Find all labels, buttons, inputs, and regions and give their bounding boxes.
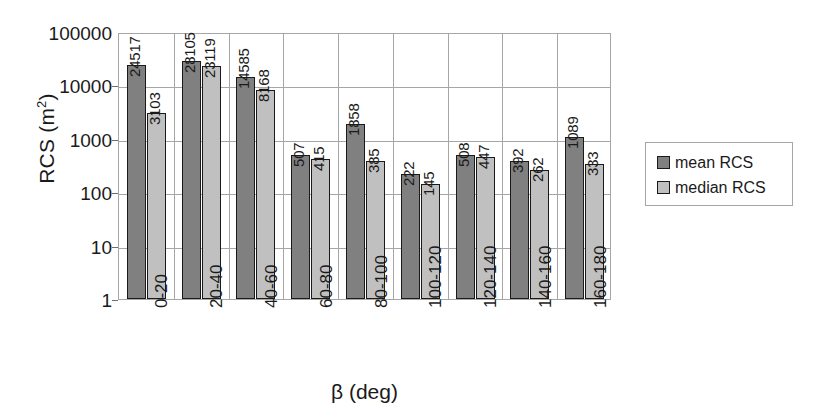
chart-legend: mean RCSmedian RCS [645,142,793,206]
y-tick-label: 100 [20,184,112,203]
bar-mean[interactable] [291,155,310,299]
x-tick-label: 0-20 [153,274,170,308]
gridline-vertical [557,34,558,299]
bar-value-label: 145 [421,171,436,195]
gridline-vertical [448,34,449,299]
bar-value-label: 3103 [147,92,162,125]
bar-value-label: 1858 [346,104,361,137]
legend-label: mean RCS [675,155,753,171]
bar-mean[interactable] [456,155,475,299]
bar-value-label: 1089 [565,116,580,149]
bar-value-label: 8168 [256,70,271,103]
bar-value-label: 385 [366,148,381,172]
bar-mean[interactable] [182,61,201,299]
bar-value-label: 23119 [202,38,217,78]
legend-item[interactable]: median RCS [657,175,792,200]
x-tick-label: 140-160 [537,246,554,308]
bar-value-label: 28105 [182,33,197,74]
bar-mean[interactable] [401,174,420,299]
y-tick-label: 10 [20,238,112,257]
gridline-vertical [283,34,284,299]
bar-value-label: 14585 [236,48,251,89]
y-axis-ticks: 100000100001000100101 [18,0,112,420]
bar-value-label: 262 [530,157,545,181]
y-axis-tickmark [112,193,118,194]
x-tick-label: 160-180 [592,246,609,308]
x-tick-label: 20-40 [208,265,225,308]
x-tick-label: 60-80 [318,265,335,308]
y-tick-label: 100000 [20,24,112,43]
bar-mean[interactable] [236,77,255,299]
x-tick-label: 40-60 [263,265,280,308]
gridline-vertical [174,34,175,299]
bar-median[interactable] [147,113,166,299]
gridline-vertical [338,34,339,299]
bar-mean[interactable] [510,161,529,299]
bar-value-label: 392 [510,148,525,172]
bar-value-label: 507 [291,142,306,166]
y-tick-label: 1000 [20,131,112,150]
x-tick-label: 120-140 [482,246,499,308]
bar-value-label: 447 [476,145,491,169]
x-tick-label: 80-100 [373,255,390,308]
bar-mean[interactable] [346,124,365,299]
legend-label: median RCS [675,180,766,196]
legend-item[interactable]: mean RCS [657,150,792,175]
bar-mean[interactable] [127,65,146,299]
legend-swatch-icon [657,181,670,194]
bar-value-label: 222 [401,161,416,185]
y-axis-tickmark [112,247,118,248]
bar-value-label: 508 [456,142,471,166]
y-axis-tickmark [112,140,118,141]
legend-swatch-icon [657,156,670,169]
gridline-vertical [502,34,503,299]
gridline-vertical [229,34,230,299]
y-axis-tickmark [112,86,118,87]
rcs-bar-chart: RCS (m2) 100000100001000100101 0-2020-40… [0,0,821,420]
bar-value-label: 24517 [127,36,142,77]
x-tick-label: 100-120 [427,246,444,308]
bar-value-label: 415 [311,147,326,171]
y-tick-label: 10000 [20,77,112,96]
gridline-vertical [393,34,394,299]
bar-mean[interactable] [565,137,584,299]
y-tick-label: 1 [20,291,112,310]
x-axis-title: β (deg) [118,380,611,404]
bar-value-label: 333 [585,152,600,176]
y-axis-tickmark [112,300,118,301]
